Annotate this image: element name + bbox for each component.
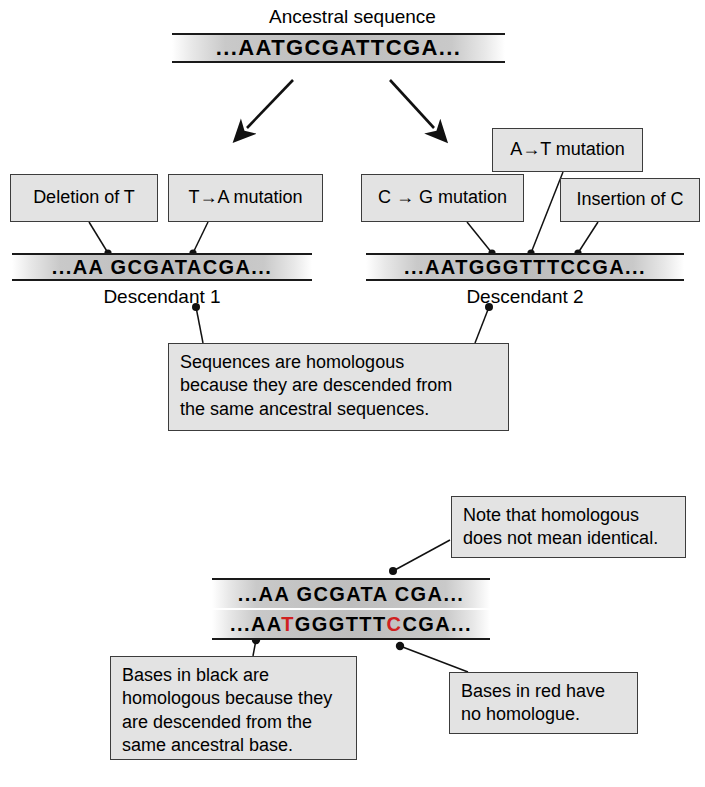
aligned-bottom-sequence-text: ...AATGGGTTTCCGA... [230,614,472,634]
callout-insertion-of-c: Insertion of C [560,178,700,222]
callout-black-bases-homologous: Bases in black are homologous because th… [110,656,357,760]
leader-deletion-of-t [89,222,108,253]
leader-dot-not-identical [389,567,397,575]
red-base: C [387,613,403,635]
divergence-arrow-left [247,80,293,128]
aligned-top-sequence-bar: ...AA GCGATA CGA... [212,578,490,608]
red-base: T [281,613,295,635]
descendant1-sequence-bar: ...AA GCGATACGA... [12,253,312,281]
aligned-top-sequence-text: ...AA GCGATA CGA... [238,584,465,604]
leader-homologous-left [196,307,203,343]
leader-c-to-g [467,222,492,253]
ancestral-sequence-text: ...AATGCGATTCGA... [216,37,462,59]
descendant2-sequence-bar: ...AATGGGTTTCCGA... [366,253,684,281]
leader-insertion-of-c [578,222,598,253]
descendant1-label: Descendant 1 [12,286,312,308]
leader-homologous-right [475,307,489,343]
callout-a-to-t-mutation: A→T mutation [492,128,643,172]
aligned-bottom-sequence-bar: ...AATGGGTTTCCGA... [212,610,490,640]
divergence-arrow-right [390,80,434,128]
callout-t-to-a-mutation: T→A mutation [168,174,323,222]
ancestral-sequence-bar: ...AATGCGATTCGA... [172,33,505,63]
leader-black-bases [253,640,256,656]
black-base-run: ...AA [230,613,281,635]
leader-not-identical [393,540,450,571]
callout-red-bases-no-homologue: Bases in red have no homologue. [449,672,638,734]
black-base-run: CGA... [402,613,472,635]
callout-c-to-g-mutation: C → G mutation [361,174,524,222]
leader-dot-red-bases [396,642,404,650]
ancestral-sequence-label: Ancestral sequence [0,6,705,28]
descendant2-label: Descendant 2 [366,286,684,308]
leader-red-bases [400,646,468,672]
leader-t-to-a [193,222,208,253]
callout-sequences-homologous: Sequences are homologous because they ar… [168,343,509,431]
black-base-run: GGGTTT [295,613,387,635]
callout-deletion-of-t: Deletion of T [10,174,158,222]
descendant1-sequence-text: ...AA GCGATACGA... [52,257,272,277]
figure-canvas: Ancestral sequence ...AATGCGATTCGA... De… [0,0,705,787]
leader-a-to-t [531,172,563,253]
descendant2-sequence-text: ...AATGGGTTTCCGA... [404,257,646,277]
callout-not-identical: Note that homologous does not mean ident… [451,496,686,558]
